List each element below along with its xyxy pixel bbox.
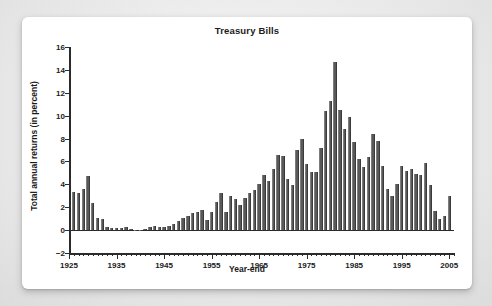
bar (82, 189, 85, 230)
x-tick-minor (283, 253, 284, 256)
bar (381, 166, 384, 230)
x-tick-minor (444, 253, 445, 256)
x-tick-minor (273, 253, 274, 256)
x-tick-minor (254, 253, 255, 256)
x-tick-minor (378, 253, 379, 256)
bar (105, 227, 108, 230)
bar (414, 174, 417, 230)
x-tick-minor (335, 253, 336, 256)
bar (72, 192, 75, 230)
x-tick-minor (207, 253, 208, 256)
bar (376, 141, 379, 230)
bar (219, 193, 222, 230)
x-tick-major (307, 253, 308, 259)
x-tick-minor (435, 253, 436, 256)
bar (243, 198, 246, 230)
bar (362, 167, 365, 230)
x-tick-minor (74, 253, 75, 256)
bar (410, 169, 413, 230)
x-tick-minor (297, 253, 298, 256)
bar (120, 228, 123, 230)
bar (395, 184, 398, 230)
x-tick-major (259, 253, 260, 259)
x-tick-minor (112, 253, 113, 256)
bar (343, 129, 346, 230)
bar (158, 227, 161, 230)
bar (101, 219, 104, 230)
y-tick-label: 14 (56, 65, 65, 74)
x-tick-minor (126, 253, 127, 256)
bar (191, 213, 194, 230)
y-tick (65, 139, 69, 140)
x-tick-minor (321, 253, 322, 256)
x-tick-minor (330, 253, 331, 256)
y-tick (65, 161, 69, 162)
y-tick (65, 207, 69, 208)
x-tick-minor (159, 253, 160, 256)
x-tick-minor (245, 253, 246, 256)
y-tick (65, 70, 69, 71)
zero-baseline (69, 230, 454, 231)
bar (177, 221, 180, 230)
y-axis-title-label: Total annual returns (in percent) (29, 81, 39, 211)
x-tick-minor (345, 253, 346, 256)
bar (310, 172, 313, 230)
x-tick-minor (278, 253, 279, 256)
bar (110, 228, 113, 230)
x-tick-major (449, 253, 450, 259)
x-axis-title: Year-end (22, 264, 472, 274)
x-tick-minor (359, 253, 360, 256)
x-tick-minor (131, 253, 132, 256)
x-tick-minor (326, 253, 327, 256)
bar (262, 175, 265, 230)
chart-title: Treasury Bills (22, 25, 472, 36)
bar (91, 203, 94, 230)
y-tick-label: 4 (61, 180, 65, 189)
bar (329, 101, 332, 230)
x-tick-minor (364, 253, 365, 256)
x-tick-minor (454, 253, 455, 256)
bar (367, 157, 370, 230)
x-tick-minor (155, 253, 156, 256)
x-tick-minor (216, 253, 217, 256)
x-tick-minor (145, 253, 146, 256)
bar (86, 176, 89, 230)
bar (200, 210, 203, 231)
y-tick-label: 2 (61, 203, 65, 212)
y-tick (65, 93, 69, 94)
bar (257, 184, 260, 230)
bar (124, 227, 127, 230)
y-tick-label: −2 (56, 249, 65, 258)
bar (139, 230, 142, 231)
bar (205, 220, 208, 230)
bar (300, 139, 303, 231)
x-tick-minor (178, 253, 179, 256)
x-tick-minor (188, 253, 189, 256)
bar (153, 226, 156, 231)
y-tick (65, 47, 69, 48)
x-tick-minor (373, 253, 374, 256)
bar (224, 212, 227, 230)
bar (276, 155, 279, 231)
bar (281, 156, 284, 230)
y-tick-label: 16 (56, 43, 65, 52)
x-tick-minor (406, 253, 407, 256)
bar (390, 196, 393, 230)
bar (338, 110, 341, 230)
bar (115, 228, 118, 230)
bar (286, 179, 289, 231)
x-tick-minor (349, 253, 350, 256)
chart-card: Treasury Bills Total annual returns (in … (22, 17, 472, 289)
x-tick-minor (316, 253, 317, 256)
x-tick-minor (202, 253, 203, 256)
x-tick-minor (102, 253, 103, 256)
bar (129, 229, 132, 230)
bar (305, 164, 308, 230)
bar (438, 219, 441, 230)
y-axis-line (69, 47, 71, 253)
y-tick (65, 230, 69, 231)
x-tick-minor (368, 253, 369, 256)
x-tick-minor (311, 253, 312, 256)
bar (253, 190, 256, 230)
x-tick-minor (83, 253, 84, 256)
